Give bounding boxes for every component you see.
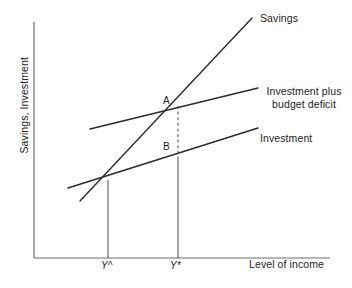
figure-container: Savings Investment plus budget deficit I… xyxy=(0,0,352,288)
y-axis-label: Savings, Investment xyxy=(18,45,31,165)
x-tick-label-y-star: Y* xyxy=(170,260,181,273)
point-label-b: B xyxy=(163,141,170,154)
curve-label-investment: Investment xyxy=(260,132,312,145)
x-axis-label: Level of income xyxy=(249,258,324,271)
point-label-a: A xyxy=(163,95,170,108)
x-tick-label-y-hat: Y^ xyxy=(101,260,113,273)
investment-curve xyxy=(68,128,258,188)
curve-label-savings: Savings xyxy=(260,12,298,25)
curve-label-investment-plus-budget-deficit: Investment plus budget deficit xyxy=(260,85,348,111)
investment-plus-budget-deficit-curve xyxy=(90,88,258,129)
savings-curve xyxy=(80,18,252,201)
